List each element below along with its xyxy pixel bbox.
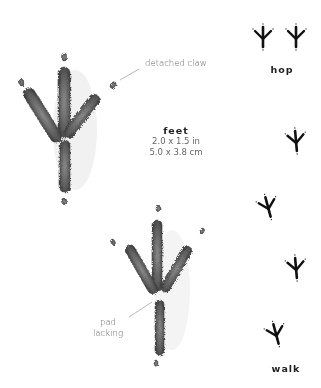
hop-label: hop [262,64,302,75]
pad-lacking-line1: pad [90,317,126,328]
pad-lacking-line2: lacking [90,328,126,339]
print-3 [284,126,308,155]
feet-title: feet [136,125,216,136]
feet-size-cm: 5.0 x 3.8 cm [136,147,216,158]
feet-dimensions-block: feet 2.0 x 1.5 in 5.0 x 3.8 cm [136,125,216,158]
hop-print-left [252,23,273,50]
pad-lacking-label: pad lacking [90,317,126,339]
hop-print-right [285,23,306,50]
print-6 [262,318,290,350]
print-4 [254,191,282,223]
walk-label: walk [262,363,310,374]
feet-size-in: 2.0 x 1.5 in [136,136,216,147]
detached-claw-label: detached claw [145,58,207,68]
print-5 [284,253,308,282]
